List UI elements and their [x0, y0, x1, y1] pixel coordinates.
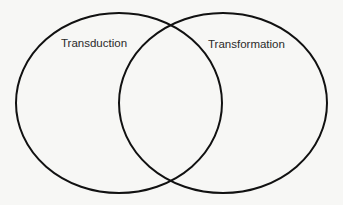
left-set-label: Transduction — [61, 37, 127, 49]
right-set-label: Transformation — [208, 38, 285, 50]
venn-circles — [0, 0, 343, 205]
venn-diagram: Transduction Transformation — [0, 0, 343, 205]
